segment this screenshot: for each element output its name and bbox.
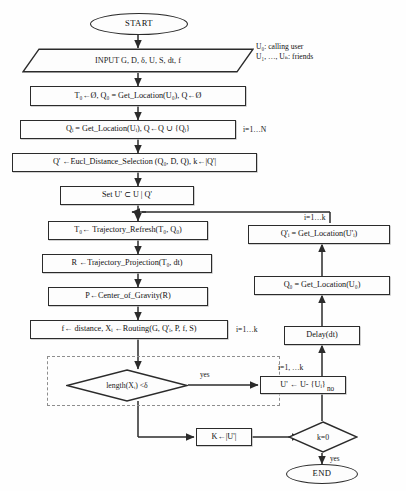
node-get-location-u0: Q₀ = Get_Location(U₀) (254, 276, 390, 295)
node-k-zero-label: k=0 (288, 421, 358, 453)
node-routing: f← distance, Xᵢ ←Routing(G, Q'ᵢ, P, f, S… (30, 320, 228, 339)
legend-users-note: U₀: calling user U₁, …, Uₙ: friends (256, 42, 313, 63)
node-end-label: END (313, 469, 332, 478)
node-end: END (286, 464, 358, 484)
node-init-label: T₀←Ø, Q₀ = Get_Location(U₀), Q←Ø (75, 92, 202, 101)
node-start: START (90, 13, 188, 35)
node-k-zero-decision: k=0 (288, 421, 358, 453)
node-eucl-label: Q' ←Eucl_Distance_Selection (Q₀, D, Q), … (53, 158, 216, 167)
node-remove-user-label: U' ← U- {Uᵢ} (280, 381, 325, 390)
node-length-decision-label: length(Xᵢ) <δ (66, 369, 188, 402)
loop-label-i-n: i=1…N (243, 125, 266, 135)
node-input-label: INPUT G, D, δ, U, S, dt, f (22, 48, 254, 73)
node-set-u-prime-label: Set U' ⊂ U | Q' (102, 191, 152, 200)
loop-label-routing-i-k: i=1…k (236, 325, 258, 335)
flowchart-connectors (0, 0, 406, 491)
node-trajectory-refresh-label: T₀← Trajectory_Refresh(T₀, Q₀) (74, 226, 181, 235)
node-get-location-u0-label: Q₀ = Get_Location(U₀) (284, 281, 361, 290)
node-trajectory-refresh: T₀← Trajectory_Refresh(T₀, Q₀) (48, 221, 208, 240)
node-delay-label: Delay(dt) (306, 331, 337, 340)
node-get-location-ui-label: Q'ᵢ = Get_Location(U'ᵢ) (281, 230, 358, 239)
node-get-location-i: Qᵢ = Get_Location(Uᵢ), Q←Q ∪ {Qᵢ} (20, 120, 236, 139)
node-center-of-gravity-label: P←Center_of_Gravity(R) (85, 292, 171, 301)
loop-label-right-i-k: i=1…k (304, 213, 326, 223)
node-k-assign-label: K←|U'| (212, 433, 237, 442)
node-trajectory-projection: R ←Trajectory_Projection(T₀, dt) (42, 254, 212, 273)
node-get-location-ui: Q'ᵢ = Get_Location(U'ᵢ) (248, 225, 390, 244)
node-init: T₀←Ø, Q₀ = Get_Location(U₀), Q←Ø (30, 86, 246, 106)
loop-label-dashed-i-k: i=1, …k (278, 363, 303, 373)
node-delay: Delay(dt) (284, 326, 360, 345)
edge-label-yes-k: yes (330, 455, 340, 463)
node-center-of-gravity: P←Center_of_Gravity(R) (48, 287, 208, 306)
node-eucl-distance-selection: Q' ←Eucl_Distance_Selection (Q₀, D, Q), … (12, 153, 257, 172)
node-length-decision: length(Xᵢ) <δ (66, 369, 188, 402)
node-k-assign: K←|U'| (196, 428, 252, 446)
node-set-u-prime: Set U' ⊂ U | Q' (60, 186, 194, 205)
node-input: INPUT G, D, δ, U, S, dt, f (22, 48, 254, 73)
flowchart-canvas: START INPUT G, D, δ, U, S, dt, f U₀: cal… (0, 0, 406, 491)
node-trajectory-projection-label: R ←Trajectory_Projection(T₀, dt) (71, 259, 182, 268)
node-get-location-i-label: Qᵢ = Get_Location(Uᵢ), Q←Q ∪ {Qᵢ} (66, 125, 190, 134)
node-start-label: START (125, 19, 153, 28)
node-routing-label: f← distance, Xᵢ ←Routing(G, Q'ᵢ, P, f, S… (61, 325, 196, 334)
edge-label-no-k: no (327, 385, 334, 393)
edge-label-yes-length: yes (200, 371, 210, 379)
